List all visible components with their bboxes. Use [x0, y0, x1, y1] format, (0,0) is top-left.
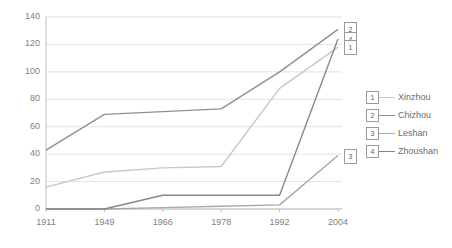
series-line-leshan: [46, 156, 338, 209]
legend-item-zhoushan[interactable]: 4Zhoushan: [366, 142, 452, 160]
axis-lines: [46, 17, 342, 212]
legend-line-swatch: [379, 115, 395, 116]
line-chart: 020406080100120140 191119491966197819922…: [0, 0, 452, 248]
y-axis-tick-label: 100: [10, 66, 40, 76]
endpoint-marker-xinzhou: 1: [344, 40, 357, 55]
legend-label: Leshan: [398, 128, 428, 138]
y-axis-tick-label: 120: [10, 38, 40, 48]
legend-line-swatch: [379, 151, 395, 152]
legend-item-leshan[interactable]: 3Leshan: [366, 124, 452, 142]
legend-line-swatch: [379, 133, 395, 134]
legend-line-swatch: [379, 97, 395, 98]
legend-marker-xinzhou: 1: [366, 91, 379, 104]
y-axis-tick-label: 80: [10, 93, 40, 103]
y-axis-tick-label: 140: [10, 11, 40, 21]
x-axis-tick-label: 1966: [143, 217, 183, 227]
legend-marker-chizhou: 2: [366, 109, 379, 122]
x-axis-tick-label: 1911: [26, 217, 66, 227]
y-axis-tick-label: 40: [10, 148, 40, 158]
series-line-chizhou: [46, 29, 338, 150]
series-line-xinzhou: [46, 47, 338, 187]
chart-legend: 1Xinzhou2Chizhou3Leshan4Zhoushan: [366, 88, 452, 160]
y-axis-tick-label: 0: [10, 203, 40, 213]
x-axis-tick-label: 1949: [84, 217, 124, 227]
legend-marker-leshan: 3: [366, 127, 379, 140]
legend-label: Zhoushan: [398, 146, 438, 156]
gridlines: [46, 17, 342, 209]
legend-item-chizhou[interactable]: 2Chizhou: [366, 106, 452, 124]
legend-item-xinzhou[interactable]: 1Xinzhou: [366, 88, 452, 106]
endpoint-marker-leshan: 3: [344, 149, 357, 164]
legend-marker-zhoushan: 4: [366, 145, 379, 158]
legend-label: Xinzhou: [398, 92, 431, 102]
y-axis-tick-label: 20: [10, 176, 40, 186]
legend-label: Chizhou: [398, 110, 431, 120]
x-axis-tick-label: 1992: [260, 217, 300, 227]
y-axis-tick-label: 60: [10, 121, 40, 131]
x-axis-tick-label: 2004: [318, 217, 358, 227]
x-axis-tick-label: 1978: [201, 217, 241, 227]
